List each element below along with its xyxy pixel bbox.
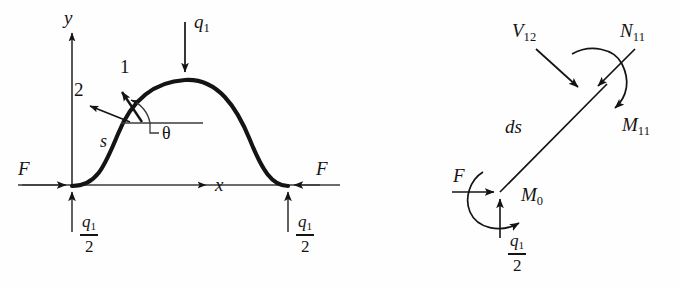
theta-leader [150,123,159,133]
load-label-q1: q1 [194,12,210,34]
moment-M0-subscript: 0 [537,194,543,208]
y-axis-label: y [64,8,72,27]
ds-element-line [500,84,607,192]
normal-label-N11: N11 [620,21,645,43]
load-label-base: q [194,11,204,32]
right-support-F-label: F [316,159,328,178]
lower-node-F-label: F [453,166,465,185]
normal-label-2: 2 [74,80,84,99]
x-axis-label: x [215,175,223,194]
element-label-ds: ds [505,117,522,136]
left-reaction-denominator: 2 [80,237,98,255]
right-reaction-numerator: q1 [296,213,314,233]
moment-label-M0: M0 [521,185,543,207]
lower-node-reaction-label: q1 2 [508,232,526,274]
moment-M0-base: M [521,184,537,205]
arclength-label-s: s [100,132,107,150]
shear-label-V12: V12 [512,21,537,43]
tangent-label-1: 1 [120,57,130,76]
moment-M11-subscript: 11 [638,124,650,138]
lower-reaction-numerator: q1 [508,232,526,252]
right-reaction-denominator: 2 [296,237,314,255]
right-support-reaction-label: q1 2 [296,213,314,255]
left-support-reaction-label: q1 2 [80,213,98,255]
moment-label-M11: M11 [622,115,650,137]
left-reaction-numerator: q1 [80,213,98,233]
normal-N11-arrow [598,49,635,86]
shear-label-subscript: 12 [524,30,537,44]
load-label-subscript: 1 [204,21,210,35]
angle-label-theta: θ [162,124,171,142]
figure-root: y x q1 1 2 s θ F q1 2 F q1 2 ds V12 N11 … [0,0,681,287]
shear-V12-arrow [536,49,578,87]
normal-label-base: N [620,20,633,41]
normal-label-subscript: 11 [633,30,645,44]
lower-reaction-fraction-bar [508,253,526,255]
moment-M11-base: M [622,114,638,135]
left-support-F-label: F [18,159,30,178]
moment-M11-curved-arrow [572,49,627,108]
left-reaction-fraction-bar [80,234,98,236]
normal-direction-arrow [90,106,130,122]
right-reaction-fraction-bar [296,234,314,236]
lower-reaction-denominator: 2 [508,256,526,274]
shear-label-base: V [512,20,524,41]
